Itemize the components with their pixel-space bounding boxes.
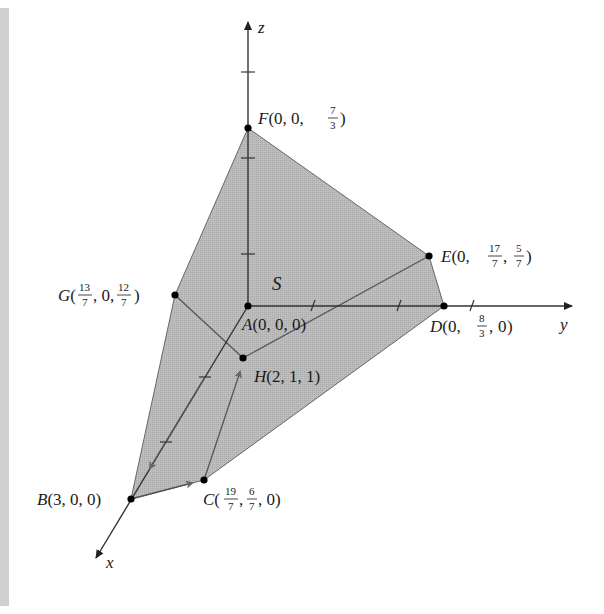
svg-text:5: 5 xyxy=(516,242,522,254)
point-d xyxy=(440,302,447,309)
svg-text:8: 8 xyxy=(479,312,485,324)
svg-text:12: 12 xyxy=(118,281,129,293)
svg-text:0: 0 xyxy=(498,317,507,336)
svg-text:7: 7 xyxy=(228,500,234,512)
svg-text:,: , xyxy=(503,247,507,266)
svg-text:, 0,: , 0, xyxy=(93,286,114,305)
point-c xyxy=(200,476,207,483)
svg-text:G(: G( xyxy=(58,286,76,305)
point-a xyxy=(244,302,251,309)
svg-text:): ) xyxy=(134,286,140,305)
point-b xyxy=(127,495,134,502)
svg-text:7: 7 xyxy=(492,257,498,269)
region-label: S xyxy=(272,273,282,294)
svg-text:6: 6 xyxy=(249,485,255,497)
label-g: G( 13 7 , 0, 12 7 ) xyxy=(58,281,140,308)
svg-text:, 0): , 0) xyxy=(258,490,281,509)
svg-text:17: 17 xyxy=(489,242,501,254)
y-axis-label: y xyxy=(558,315,568,334)
svg-text:): ) xyxy=(526,247,532,266)
x-axis-label: x xyxy=(105,553,114,572)
svg-text:,: , xyxy=(489,317,493,336)
svg-text:E(0,: E(0, xyxy=(440,247,470,266)
label-d: D(0, 8 3 , 0 ) xyxy=(429,312,513,339)
svg-text:7: 7 xyxy=(516,257,522,269)
label-c: C( 19 7 , 6 7 , 0) xyxy=(203,485,281,512)
svg-text:3: 3 xyxy=(330,119,336,131)
point-f xyxy=(244,124,251,131)
svg-text:C(: C( xyxy=(203,490,220,509)
svg-text:D(0,: D(0, xyxy=(429,317,461,336)
label-e: E(0, 17 7 , 5 7 ) xyxy=(440,242,532,269)
z-axis-label: z xyxy=(257,18,265,37)
svg-text:): ) xyxy=(340,109,346,128)
svg-text:): ) xyxy=(507,317,513,336)
point-h xyxy=(239,354,246,361)
region-s xyxy=(131,128,444,499)
svg-text:13: 13 xyxy=(79,281,91,293)
label-a: A(0, 0, 0) xyxy=(241,315,306,334)
label-f: F(0, 0, 7 3 ) xyxy=(257,104,346,131)
svg-text:7: 7 xyxy=(249,500,255,512)
svg-text:,: , xyxy=(239,490,243,509)
feasible-region-diagram: z y x S F(0, 0, 7 3 ) E(0, 17 7 , 5 7 ) … xyxy=(0,0,604,614)
label-b: B(3, 0, 0) xyxy=(37,490,101,509)
svg-text:F(0, 0,: F(0, 0, xyxy=(257,109,304,128)
svg-text:7: 7 xyxy=(82,296,88,308)
svg-text:7: 7 xyxy=(330,104,336,116)
svg-text:3: 3 xyxy=(479,327,485,339)
svg-text:19: 19 xyxy=(225,485,237,497)
point-e xyxy=(425,252,432,259)
svg-text:7: 7 xyxy=(121,296,127,308)
point-g xyxy=(171,291,178,298)
label-h: H(2, 1, 1) xyxy=(253,367,320,386)
